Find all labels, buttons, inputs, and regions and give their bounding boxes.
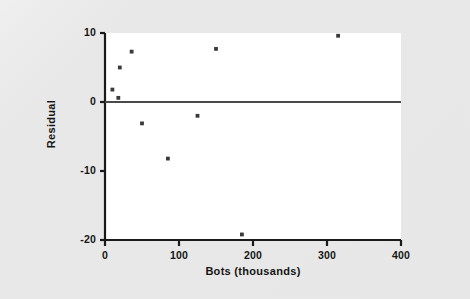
data-point (130, 50, 134, 54)
x-axis-tick-label: 100 (149, 249, 209, 261)
data-point (140, 121, 144, 125)
x-axis-tick-label: 400 (371, 249, 431, 261)
data-point (240, 233, 244, 237)
x-axis-tick-label: 0 (75, 249, 135, 261)
data-point (196, 114, 200, 118)
x-axis-tick-label: 200 (223, 249, 283, 261)
data-point (336, 34, 340, 38)
data-point (118, 66, 122, 70)
x-axis-tick-label: 300 (297, 249, 357, 261)
y-axis-tick-label: 10 (84, 26, 96, 38)
data-point (116, 96, 120, 100)
data-point (166, 157, 170, 161)
y-axis-tick-label: -20 (80, 233, 96, 245)
y-axis-tick-label: -10 (80, 164, 96, 176)
residual-plot-figure: Residual Bots (thousands) 100-10-2001002… (0, 0, 470, 299)
y-axis-tick-label: 0 (90, 95, 96, 107)
data-point (111, 88, 115, 92)
y-axis-label: Residual (45, 64, 57, 184)
data-point (214, 47, 218, 51)
x-axis-label: Bots (thousands) (105, 265, 401, 277)
